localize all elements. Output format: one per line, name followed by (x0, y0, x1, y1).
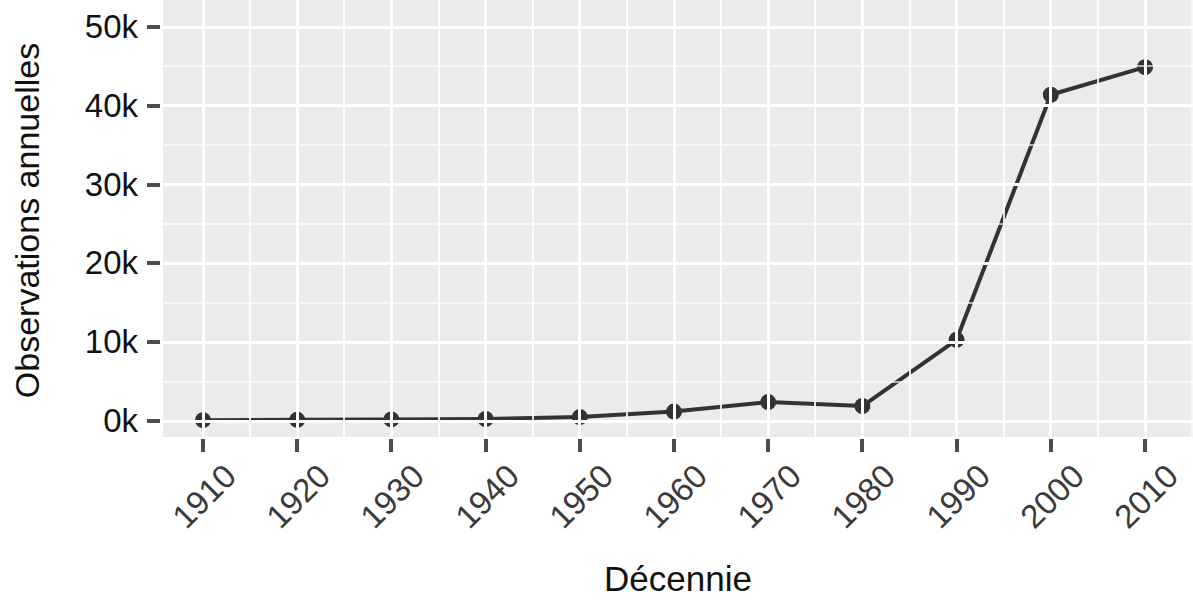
x-axis-title-label: Décennie (604, 559, 752, 599)
y-axis-tick-mark (147, 419, 160, 423)
y-axis-tick-mark (147, 261, 160, 265)
gridline-minor-horizontal (163, 144, 1193, 146)
gridline-major-vertical (955, 0, 958, 437)
gridline-major-horizontal (163, 183, 1193, 186)
gridline-major-horizontal (163, 262, 1193, 265)
y-axis-title-label: Observations annuelles (9, 42, 48, 397)
gridline-minor-vertical (909, 0, 911, 437)
y-axis-tick-mark (147, 340, 160, 344)
x-axis-tick-mark (955, 439, 959, 452)
gridline-major-horizontal (163, 104, 1193, 107)
x-axis-tick-mark (860, 439, 864, 452)
x-axis-tick-mark (578, 439, 582, 452)
gridline-minor-horizontal (163, 381, 1193, 383)
x-axis-tick-label: 2010 (1107, 457, 1186, 536)
y-axis-title: Observations annuelles (0, 0, 56, 440)
x-axis-tick-mark (201, 439, 205, 452)
x-axis-tick-mark (295, 439, 299, 452)
y-axis-tick-mark (147, 183, 160, 187)
gridline-major-horizontal (163, 420, 1193, 423)
gridline-major-vertical (673, 0, 676, 437)
gridline-minor-horizontal (163, 302, 1193, 304)
x-axis-tick-mark (484, 439, 488, 452)
gridline-major-vertical (1144, 0, 1147, 437)
x-axis-tick-label: 1910 (165, 457, 244, 536)
x-axis-title: Décennie (163, 549, 1193, 609)
chart-figure: Observations annuelles 50k40k30k20k10k0k… (0, 0, 1193, 609)
y-axis-tick-label: 50k (85, 8, 138, 46)
gridline-major-vertical (767, 0, 770, 437)
gridline-major-horizontal (163, 341, 1193, 344)
gridline-major-vertical (484, 0, 487, 437)
plot-panel (163, 0, 1193, 437)
gridline-minor-horizontal (163, 65, 1193, 67)
x-axis-tick-label: 1990 (919, 457, 998, 536)
x-axis-tick-label: 1980 (824, 457, 903, 536)
x-axis-tick-mark (389, 439, 393, 452)
y-axis-tick-mark (147, 104, 160, 108)
y-axis-tick-labels: 50k40k30k20k10k0k (52, 0, 144, 440)
x-axis-tick-label: 1930 (353, 457, 432, 536)
gridline-minor-vertical (814, 0, 816, 437)
x-axis-tick-label: 1960 (636, 457, 715, 536)
gridline-minor-vertical (1003, 0, 1005, 437)
y-axis-tick-mark (147, 25, 160, 29)
x-axis-tick-mark (1049, 439, 1053, 452)
x-axis-tick-labels: 1910192019301940195019601970198019902000… (163, 453, 1193, 549)
x-axis-tick-label: 1950 (542, 457, 621, 536)
gridline-major-vertical (578, 0, 581, 437)
gridline-major-vertical (202, 0, 205, 437)
x-axis-tick-marks (163, 437, 1193, 453)
gridline-major-vertical (296, 0, 299, 437)
x-axis-tick-label: 1920 (259, 457, 338, 536)
y-axis-tick-label: 40k (85, 87, 138, 125)
x-axis-tick-label: 1970 (730, 457, 809, 536)
y-axis-tick-label: 10k (85, 323, 138, 361)
gridline-minor-horizontal (163, 223, 1193, 225)
gridline-major-vertical (861, 0, 864, 437)
gridline-minor-vertical (532, 0, 534, 437)
y-axis-tick-label: 30k (85, 166, 138, 204)
y-axis-tick-label: 0k (103, 402, 138, 440)
gridline-major-horizontal (163, 26, 1193, 29)
x-axis-tick-label: 1940 (448, 457, 527, 536)
gridline-minor-vertical (343, 0, 345, 437)
x-axis-tick-label: 2000 (1013, 457, 1092, 536)
gridline-major-vertical (390, 0, 393, 437)
gridline-minor-vertical (249, 0, 251, 437)
x-axis-tick-mark (1143, 439, 1147, 452)
gridline-minor-vertical (720, 0, 722, 437)
y-axis-tick-label: 20k (85, 244, 138, 282)
x-axis-tick-mark (766, 439, 770, 452)
x-axis-tick-mark (672, 439, 676, 452)
gridline-minor-vertical (1097, 0, 1099, 437)
gridline-minor-vertical (626, 0, 628, 437)
gridline-major-vertical (1049, 0, 1052, 437)
gridline-minor-vertical (438, 0, 440, 437)
